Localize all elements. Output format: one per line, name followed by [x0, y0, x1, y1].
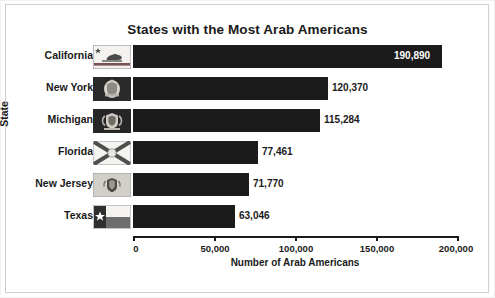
bar-row: Michigan 115,284: [0, 107, 495, 134]
category-label: New York: [46, 81, 93, 93]
texas-flag-icon: [93, 205, 131, 229]
bar: [133, 173, 249, 196]
bar-value-label: 63,046: [239, 210, 270, 221]
bar-value-label: 190,890: [394, 50, 430, 61]
plot-area: California 190,890 New York: [0, 0, 495, 298]
bar: [133, 109, 320, 132]
x-axis-tick-label: 100,000: [279, 243, 313, 254]
bar-value-label: 71,770: [253, 178, 284, 189]
bar-row: Florida 77,461: [0, 139, 495, 166]
x-axis-tick-label: 0: [133, 243, 138, 254]
x-axis-title: Number of Arab Americans: [133, 257, 457, 268]
michigan-flag-icon: [93, 109, 131, 133]
category-label: Texas: [64, 209, 93, 221]
florida-flag-icon: [93, 141, 131, 165]
bar-row: Texas 63,046: [0, 203, 495, 230]
bar: [133, 205, 235, 228]
x-axis-tick: [376, 236, 378, 241]
bar-row: New York 120,370: [0, 75, 495, 102]
california-flag-icon: [93, 45, 131, 69]
category-label: New Jersey: [35, 177, 93, 189]
x-axis-tick-label: 150,000: [360, 243, 394, 254]
bar: [133, 77, 328, 100]
new-jersey-flag-icon: [93, 173, 131, 197]
bar-row: California 190,890: [0, 43, 495, 70]
chart-figure: States with the Most Arab Americans Stat…: [0, 0, 495, 298]
bar-value-label: 115,284: [324, 114, 360, 125]
category-label: Florida: [58, 145, 93, 157]
x-axis-tick: [133, 236, 135, 241]
bar-row: New Jersey 71,770: [0, 171, 495, 198]
x-axis-tick-label: 50,000: [200, 243, 229, 254]
bar-value-label: 120,370: [332, 82, 368, 93]
x-axis-tick: [457, 236, 459, 241]
x-axis-tick: [295, 236, 297, 241]
category-label: California: [45, 49, 93, 61]
category-label: Michigan: [47, 113, 93, 125]
x-axis-tick-label: 200,000: [439, 243, 473, 254]
new-york-flag-icon: [93, 77, 131, 101]
x-axis-tick: [214, 236, 216, 241]
bar: [133, 141, 258, 164]
bar-value-label: 77,461: [262, 146, 293, 157]
